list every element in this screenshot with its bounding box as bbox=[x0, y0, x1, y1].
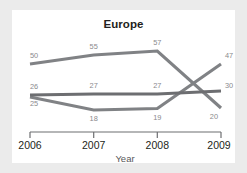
chart-card: Europe 50 55 57 20 26 27 27 30 25 18 19 … bbox=[12, 10, 235, 163]
line-chart-plot: 50 55 57 20 26 27 27 30 25 18 19 47 2006… bbox=[12, 10, 235, 163]
data-label-s3-2009: 47 bbox=[225, 51, 233, 60]
data-label-s2-2006: 26 bbox=[30, 82, 38, 91]
data-label-s1-2009: 20 bbox=[210, 112, 218, 121]
x-axis-title: Year bbox=[115, 153, 134, 163]
series-line-2 bbox=[30, 91, 221, 95]
data-label-s3-2006: 25 bbox=[30, 99, 38, 108]
data-label-s3-2008: 19 bbox=[153, 113, 161, 122]
data-label-s2-2009: 30 bbox=[225, 81, 233, 90]
data-label-s2-2008: 27 bbox=[153, 81, 161, 90]
data-label-s1-2006: 50 bbox=[30, 51, 38, 60]
data-label-s1-2008: 57 bbox=[153, 38, 161, 47]
series-line-3 bbox=[30, 64, 221, 110]
x-tick-label-2006: 2006 bbox=[18, 139, 42, 151]
data-label-s2-2007: 27 bbox=[90, 81, 98, 90]
x-tick-label-2007: 2007 bbox=[82, 139, 106, 151]
data-label-s1-2007: 55 bbox=[90, 42, 98, 51]
series-line-1 bbox=[30, 51, 221, 108]
x-tick-label-2009: 2009 bbox=[207, 139, 231, 151]
data-label-s3-2007: 18 bbox=[90, 114, 98, 123]
x-tick-label-2008: 2008 bbox=[146, 139, 170, 151]
